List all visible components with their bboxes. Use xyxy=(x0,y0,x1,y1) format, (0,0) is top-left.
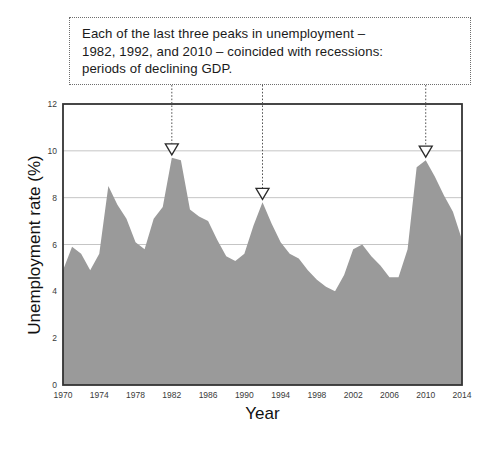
y-tick-label-12: 12 xyxy=(48,99,58,109)
x-tick-label-1970: 1970 xyxy=(54,390,73,400)
x-tick-label-1978: 1978 xyxy=(126,390,145,400)
y-tick-label-8: 8 xyxy=(52,193,57,203)
x-tick-label-1974: 1974 xyxy=(90,390,109,400)
x-tick-label-1994: 1994 xyxy=(271,390,290,400)
marker-peak-2010 xyxy=(419,146,432,157)
y-axis-tick-labels: 024681012 xyxy=(48,99,58,390)
x-axis-tick-labels: 1970197419781982198619901994199820022006… xyxy=(54,390,472,400)
peak-droplines xyxy=(172,85,426,188)
x-tick-label-1986: 1986 xyxy=(199,390,218,400)
y-tick-label-0: 0 xyxy=(52,380,57,390)
peak-markers xyxy=(165,144,432,199)
x-tick-label-2010: 2010 xyxy=(416,390,435,400)
unemployment-area-chart-figure: Each of the last three peaks in unemploy… xyxy=(0,0,496,451)
y-tick-label-2: 2 xyxy=(52,333,57,343)
x-tick-label-2002: 2002 xyxy=(344,390,363,400)
y-tick-label-6: 6 xyxy=(52,240,57,250)
x-tick-label-2014: 2014 xyxy=(453,390,472,400)
x-tick-label-1982: 1982 xyxy=(162,390,181,400)
plot-area: 024681012 197019741978198219861990199419… xyxy=(0,0,496,451)
marker-peak-1982 xyxy=(165,144,178,155)
y-tick-label-4: 4 xyxy=(52,286,57,296)
x-tick-label-2006: 2006 xyxy=(380,390,399,400)
y-tick-label-10: 10 xyxy=(48,146,58,156)
x-tick-label-1990: 1990 xyxy=(235,390,254,400)
x-tick-label-1998: 1998 xyxy=(307,390,326,400)
